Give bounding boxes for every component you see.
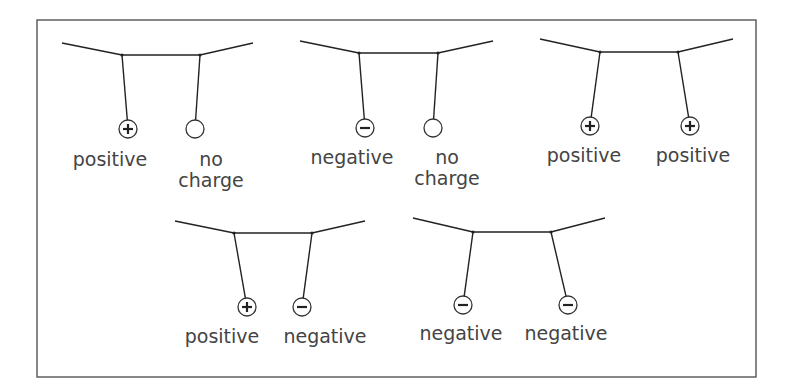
support-string (413, 218, 605, 232)
support-string (175, 221, 365, 233)
thread (303, 233, 312, 298)
panel-2: negativenocharge (300, 41, 493, 189)
charge-label: no (199, 148, 223, 170)
charge-label: negative (310, 146, 393, 168)
charge-label: positive (185, 325, 260, 347)
charge-label: positive (73, 148, 148, 170)
charge-label: negative (419, 322, 502, 344)
charge-label: no (435, 146, 459, 168)
thread (464, 232, 473, 296)
panels-group: positivenochargenegativenochargepositive… (62, 39, 733, 347)
thread (359, 53, 364, 119)
charge-label: charge (178, 169, 243, 191)
charge-label: positive (547, 144, 622, 166)
panel-3: positivepositive (540, 39, 733, 166)
charge-label: negative (524, 322, 607, 344)
thread (678, 52, 689, 117)
thread (434, 53, 438, 119)
charge-label: negative (283, 325, 366, 347)
thread (196, 55, 200, 120)
thread (551, 232, 566, 296)
diagram-frame (37, 20, 756, 377)
neutral-ball-icon (186, 120, 204, 138)
diagram-canvas: positivenochargenegativenochargepositive… (0, 0, 792, 384)
support-string (540, 39, 733, 52)
panel-4: positivenegative (175, 221, 367, 347)
thread (122, 55, 127, 120)
panel-1: positivenocharge (62, 43, 253, 191)
panel-5: negativenegative (413, 218, 608, 344)
charge-label: positive (656, 144, 731, 166)
charge-label: charge (414, 167, 479, 189)
support-string (62, 43, 253, 55)
neutral-ball-icon (424, 119, 442, 137)
thread (591, 52, 600, 117)
support-string (300, 41, 493, 53)
thread (234, 233, 245, 298)
